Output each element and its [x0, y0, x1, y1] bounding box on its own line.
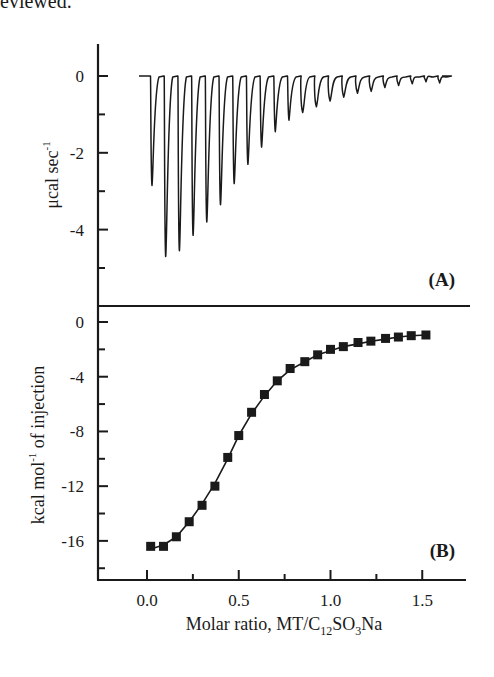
- data-point-marker: [381, 334, 390, 343]
- data-point-marker: [146, 542, 155, 551]
- svg-text:0.5: 0.5: [228, 591, 249, 610]
- panel-b: 0-4-8-12-16 0.00.51.01.5 kcal mol-1 of i…: [26, 306, 466, 638]
- data-point-marker: [185, 517, 194, 526]
- itc-figure: 0-2-4 μcal sec-1 (A) 0-4-8-12-16 0.00.51…: [0, 0, 494, 677]
- data-point-marker: [172, 532, 181, 541]
- data-point-marker: [366, 337, 375, 346]
- panel-a-y-tick-labels: 0-2-4: [70, 67, 85, 240]
- panel-a-thermogram: [139, 76, 451, 256]
- svg-text:-8: -8: [70, 422, 84, 441]
- data-point-marker: [421, 330, 430, 339]
- svg-text:-4: -4: [70, 221, 85, 240]
- panel-b-y-ticks: [98, 322, 108, 568]
- panel-b-y-tick-labels: 0-4-8-12-16: [61, 313, 84, 551]
- svg-text:0: 0: [76, 313, 85, 332]
- panel-b-x-axis-title: Molar ratio, MT/C12SO3Na: [186, 614, 383, 638]
- data-point-marker: [223, 453, 232, 462]
- panel-a: 0-2-4 μcal sec-1 (A): [40, 44, 455, 306]
- svg-text:0.0: 0.0: [136, 591, 157, 610]
- data-point-marker: [159, 542, 168, 551]
- svg-text:-16: -16: [61, 532, 84, 551]
- svg-text:1.5: 1.5: [412, 591, 433, 610]
- data-point-marker: [198, 501, 207, 510]
- panel-b-data-points: [146, 330, 430, 550]
- data-point-marker: [260, 390, 269, 399]
- data-point-marker: [326, 345, 335, 354]
- svg-text:-12: -12: [61, 477, 84, 496]
- data-point-marker: [339, 342, 348, 351]
- panel-b-label: (B): [430, 540, 455, 562]
- data-point-marker: [394, 333, 403, 342]
- panel-b-x-tick-labels: 0.00.51.01.5: [136, 591, 433, 610]
- svg-text:0: 0: [76, 67, 85, 86]
- data-point-marker: [354, 338, 363, 347]
- data-point-marker: [273, 376, 282, 385]
- panel-a-y-ticks: [98, 76, 108, 268]
- data-point-marker: [407, 331, 416, 340]
- data-point-marker: [286, 364, 295, 373]
- panel-a-label: (A): [429, 269, 455, 291]
- panel-a-y-axis-title: μcal sec-1: [40, 141, 62, 208]
- panel-b-y-axis-title: kcal mol-1 of injection: [26, 366, 48, 525]
- data-point-marker: [300, 357, 309, 366]
- svg-text:1.0: 1.0: [320, 591, 341, 610]
- svg-text:-4: -4: [70, 368, 85, 387]
- data-point-marker: [313, 350, 322, 359]
- data-point-marker: [247, 408, 256, 417]
- data-point-marker: [234, 431, 243, 440]
- data-point-marker: [210, 482, 219, 491]
- svg-text:-2: -2: [70, 144, 84, 163]
- panel-b-x-ticks: [147, 570, 422, 580]
